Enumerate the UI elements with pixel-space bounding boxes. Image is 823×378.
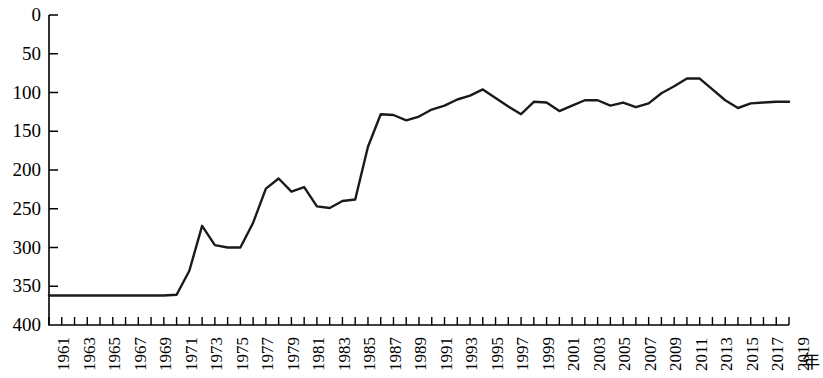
- x-tick-label: 1961: [55, 337, 72, 371]
- axis-spines: [49, 15, 789, 325]
- x-tick-label: 1989: [412, 337, 429, 371]
- x-tick-label: 1975: [234, 337, 251, 371]
- y-tick-label: 50: [0, 44, 41, 63]
- x-tick-label: 1981: [310, 337, 327, 371]
- y-tick-label: 200: [0, 160, 41, 179]
- x-tick-label: 1995: [489, 337, 506, 371]
- data-series-line: [49, 79, 789, 296]
- y-tick-label: 250: [0, 199, 41, 218]
- y-tick-label: 300: [0, 238, 41, 257]
- x-tick-label: 2013: [718, 337, 735, 371]
- x-tick-label: 1965: [106, 337, 123, 371]
- x-tick-label: 1991: [438, 337, 455, 371]
- x-tick-label: 2015: [744, 337, 761, 371]
- x-tick-label: 2009: [667, 337, 684, 371]
- x-tick-label: 2005: [616, 337, 633, 371]
- x-tick-label: 1971: [183, 337, 200, 371]
- x-tick-label: 1969: [157, 337, 174, 371]
- x-axis-ticks: [49, 317, 789, 325]
- x-axis-title: 年: [802, 353, 820, 371]
- x-tick-label: 2011: [693, 338, 710, 371]
- x-tick-label: 2001: [565, 337, 582, 371]
- x-tick-label: 1963: [81, 337, 98, 371]
- x-tick-label: 2017: [769, 337, 786, 371]
- y-tick-label: 400: [0, 315, 41, 334]
- line-chart-plot: [0, 0, 823, 378]
- x-tick-label: 1983: [336, 337, 353, 371]
- x-tick-label: 2003: [591, 337, 608, 371]
- x-tick-label: 1977: [259, 337, 276, 371]
- x-tick-label: 2007: [642, 337, 659, 371]
- x-tick-label: 1979: [285, 337, 302, 371]
- x-tick-label: 1985: [361, 337, 378, 371]
- x-tick-label: 1997: [514, 337, 531, 371]
- y-axis-ticks: [49, 15, 58, 286]
- chart-figure: 050100150200250300350400 196119631965196…: [0, 0, 823, 378]
- y-tick-label: 0: [0, 5, 41, 24]
- y-tick-label: 100: [0, 83, 41, 102]
- y-tick-label: 350: [0, 276, 41, 295]
- x-tick-label: 1987: [387, 337, 404, 371]
- x-tick-label: 1993: [463, 337, 480, 371]
- x-tick-label: 1999: [540, 337, 557, 371]
- x-tick-label: 1973: [208, 337, 225, 371]
- x-tick-label: 1967: [132, 337, 149, 371]
- y-tick-label: 150: [0, 121, 41, 140]
